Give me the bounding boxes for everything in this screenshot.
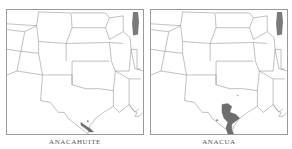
map-caption-anacua: ANACUA (150, 137, 288, 147)
state-boundaries (151, 12, 287, 134)
range-dot (237, 95, 238, 96)
range-shading-anacua (222, 103, 240, 134)
state-boundaries (7, 12, 143, 134)
lake-michigan (132, 12, 139, 36)
lake-michigan (276, 12, 283, 36)
range-dot (216, 119, 218, 121)
us-state-map (151, 10, 287, 134)
map-panel-anacahuite (6, 9, 144, 135)
range-dot (87, 121, 88, 122)
map-caption-anacahuite: ANACAHUITE (6, 137, 144, 147)
map-panel-anacua (150, 9, 288, 135)
us-state-map (7, 10, 143, 134)
